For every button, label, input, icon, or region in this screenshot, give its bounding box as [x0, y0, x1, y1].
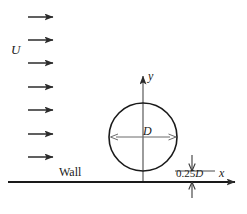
wall-label: Wall — [59, 166, 81, 178]
gap-value: 0.25 — [176, 167, 195, 179]
diameter-label: D — [143, 125, 152, 137]
gap-symbol: D — [195, 167, 203, 179]
inflow-arrow-group — [28, 17, 53, 157]
velocity-label: U — [11, 43, 20, 56]
y-axis-label: y — [148, 70, 153, 82]
figure-canvas: U y x D Wall 0.25D — [0, 0, 247, 214]
x-axis-label: x — [219, 167, 224, 179]
flow-diagram-svg — [0, 0, 247, 214]
gap-label: 0.25D — [176, 168, 203, 179]
